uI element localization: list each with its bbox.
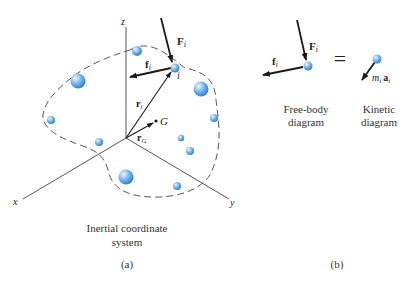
r-i-vector — [126, 72, 171, 138]
x-axis-label: x — [12, 196, 18, 207]
F-i-label: Fi — [177, 35, 186, 49]
particle-sphere — [178, 135, 184, 141]
free-body-diagram: Fi fi Free-body diagram — [263, 20, 329, 128]
r-i-label: ri — [136, 98, 142, 111]
F-i-external-force-arrow — [161, 18, 172, 62]
particle-sphere — [194, 82, 209, 97]
G-label: G — [160, 115, 168, 127]
particle-sphere — [47, 116, 55, 124]
caption-a-line2: system — [112, 236, 143, 248]
particle-sphere — [186, 147, 194, 155]
free-body-caption-line2: diagram — [288, 116, 324, 128]
panel-label-a: (a) — [121, 258, 134, 271]
particle-sphere — [119, 170, 134, 185]
fbd-f-i-label: fi — [272, 55, 278, 69]
panel-label-b: (b) — [331, 258, 344, 271]
y-axis-label: y — [229, 197, 235, 208]
particle-sphere — [173, 182, 181, 190]
particle-i-label: i — [177, 70, 180, 81]
figure-stage: z x y Fi fi i ri rG G Inertial coordinat… — [0, 0, 406, 282]
equals-sign: = — [334, 46, 346, 71]
f-i-force-arrow — [263, 67, 303, 75]
kinetic-caption-line2: diagram — [361, 116, 397, 128]
kinetic-particle — [373, 55, 382, 64]
particle-sphere — [71, 74, 86, 89]
figure-b: Fi fi Free-body diagram = miai Kinetic d… — [263, 20, 397, 271]
f-i-label: fi — [145, 58, 151, 72]
free-body-particle — [304, 62, 313, 71]
x-axis — [23, 138, 126, 199]
figure-a: z x y Fi fi i ri rG G Inertial coordinat… — [12, 16, 235, 271]
fbd-F-i-label: Fi — [309, 40, 318, 54]
center-of-mass-point — [154, 119, 157, 122]
free-body-caption-line1: Free-body — [283, 103, 329, 115]
particle-sphere — [132, 46, 142, 56]
r-G-label: rG — [137, 132, 147, 145]
m-i-a-i-label: miai — [372, 72, 390, 85]
kinetic-diagram: miai Kinetic diagram — [361, 55, 397, 129]
caption-a-line1: Inertial coordinate — [87, 222, 168, 234]
z-axis-label: z — [120, 16, 125, 27]
F-i-force-arrow — [297, 20, 306, 60]
particle-sphere — [95, 138, 103, 146]
kinetic-caption-line1: Kinetic — [363, 103, 395, 115]
diagram-canvas: z x y Fi fi i ri rG G Inertial coordinat… — [0, 0, 406, 282]
particle-sphere — [210, 114, 218, 122]
